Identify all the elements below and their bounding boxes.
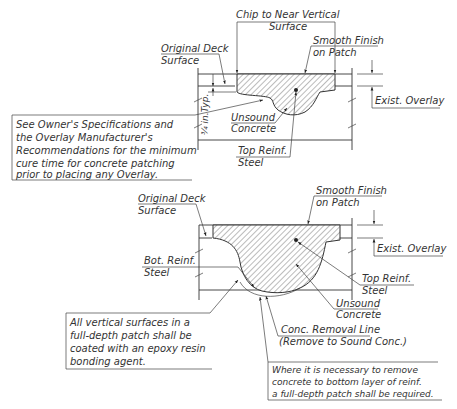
svg-text:Smooth Finish: Smooth Finish	[313, 35, 384, 46]
svg-text:Concrete: Concrete	[336, 309, 381, 320]
top-unsound-label: Unsound Concrete	[231, 108, 287, 134]
svg-text:Steel: Steel	[144, 267, 170, 278]
svg-text:Surface: Surface	[269, 21, 307, 32]
svg-text:Recommendations for the minimu: Recommendations for the minimum	[16, 145, 197, 156]
top-rebar-icon	[294, 88, 298, 92]
top-detail: Original Deck Surface ¾ in.Typ. Chip to …	[12, 9, 445, 180]
svg-text:Original Deck: Original Deck	[161, 43, 230, 54]
svg-text:Chip to Near Vertical: Chip to Near Vertical	[236, 9, 340, 20]
svg-text:Bot. Reinf.: Bot. Reinf.	[144, 255, 196, 266]
svg-text:cure time for concrete patchin: cure time for concrete patching	[16, 158, 175, 169]
svg-text:Steel: Steel	[238, 157, 264, 168]
svg-text:Unsound: Unsound	[231, 112, 276, 123]
svg-text:Conc. Removal Line: Conc. Removal Line	[281, 324, 380, 335]
top-exist-overlay-label: Exist. Overlay	[357, 60, 445, 108]
svg-text:Original Deck: Original Deck	[138, 193, 207, 204]
bottom-detail: Original Deck Surface Smooth Finish on P…	[66, 185, 447, 400]
top-original-deck-label: Original Deck Surface	[161, 43, 230, 84]
top-dimension-label: ¾ in.Typ.	[200, 94, 210, 135]
svg-text:Top Reinf.: Top Reinf.	[362, 273, 411, 284]
svg-text:prior to placing any Overlay.: prior to placing any Overlay.	[15, 169, 158, 180]
svg-text:Steel: Steel	[362, 285, 388, 296]
bottom-patch-shape	[213, 225, 340, 293]
svg-text:on Patch: on Patch	[313, 47, 357, 58]
bottom-original-deck-label: Original Deck Surface	[138, 193, 207, 236]
svg-text:the Overlay Manufacturer's: the Overlay Manufacturer's	[16, 132, 153, 143]
svg-text:coated with an epoxy resin: coated with an epoxy resin	[70, 343, 206, 354]
svg-text:bonding agent.: bonding agent.	[70, 356, 146, 367]
svg-text:Top Reinf.: Top Reinf.	[238, 145, 287, 156]
svg-text:See Owner's Specifications and: See Owner's Specifications and	[16, 119, 174, 130]
svg-text:Surface: Surface	[138, 205, 176, 216]
bottom-smooth-finish-label: Smooth Finish on Patch	[308, 185, 387, 224]
svg-text:(Remove to Sound Conc.): (Remove to Sound Conc.)	[279, 336, 407, 347]
bottom-epoxy-note: All vertical surfaces in a full-depth pa…	[66, 280, 238, 369]
svg-text:a full-depth patch shall be re: a full-depth patch shall be required.	[272, 389, 434, 399]
patch-details-diagram: Original Deck Surface ¾ in.Typ. Chip to …	[0, 0, 457, 409]
svg-text:Smooth Finish: Smooth Finish	[316, 185, 387, 196]
svg-text:Where it is necessary to remov: Where it is necessary to remove	[272, 365, 418, 375]
svg-text:All vertical surfaces in a: All vertical surfaces in a	[69, 317, 190, 328]
svg-text:Concrete: Concrete	[231, 123, 276, 134]
svg-text:Surface: Surface	[161, 55, 199, 66]
svg-text:concrete to bottom layer of re: concrete to bottom layer of reinf.	[272, 377, 422, 387]
svg-text:Exist. Overlay: Exist. Overlay	[375, 95, 445, 106]
svg-text:Exist. Overlay: Exist. Overlay	[377, 243, 447, 254]
svg-text:on Patch: on Patch	[316, 197, 360, 208]
bottom-rebar-top-icon	[294, 238, 298, 242]
bottom-exist-overlay-label: Exist. Overlay	[357, 210, 447, 256]
svg-text:full-depth patch shall be: full-depth patch shall be	[70, 330, 192, 341]
svg-text:Unsound: Unsound	[336, 298, 381, 309]
bottom-bot-reinf-label: Bot. Reinf. Steel	[142, 255, 254, 287]
